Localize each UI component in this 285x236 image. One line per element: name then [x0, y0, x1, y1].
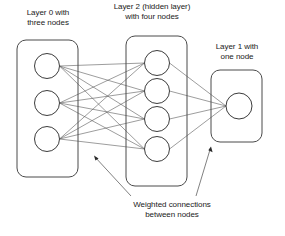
layer-1-nodes: [226, 93, 252, 119]
node-hidden-2: [145, 107, 170, 132]
pointer-line-right: [196, 148, 211, 196]
node-hidden-3: [145, 137, 170, 162]
layer-0-label: Layer 0 with three nodes: [8, 8, 88, 27]
layer-1-label: Layer 1 with one node: [204, 42, 270, 61]
neural-network-diagram: Layer 0 with three nodes Layer 2 (hidden…: [0, 0, 285, 236]
edge-h1-o0: [170, 91, 227, 106]
node-hidden-0: [145, 51, 170, 76]
layer-0-nodes: [35, 54, 60, 152]
node-hidden-1: [145, 79, 170, 104]
edges-input-to-hidden: [60, 63, 145, 149]
node-input-2: [35, 127, 60, 152]
edge-i1-h3: [60, 103, 145, 149]
layer-2-nodes: [145, 51, 170, 162]
layer-2-label: Layer 2 (hidden layer) with four nodes: [98, 2, 206, 21]
edges-hidden-to-output: [170, 63, 227, 149]
edge-h0-o0: [170, 63, 227, 106]
edge-i0-h0: [60, 63, 145, 66]
node-output-0: [226, 93, 252, 119]
edge-i2-h1: [60, 91, 145, 139]
edge-i2-h3: [60, 139, 145, 149]
node-input-1: [35, 91, 60, 116]
node-input-0: [35, 54, 60, 79]
edge-i2-h2: [60, 119, 145, 139]
pointer-arrowhead-right: [208, 147, 212, 153]
weighted-connections-label: Weighted connections between nodes: [112, 200, 232, 219]
